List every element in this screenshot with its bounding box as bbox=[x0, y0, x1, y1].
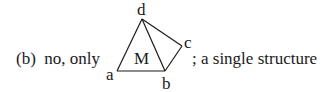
vertex-label-a: a bbox=[106, 65, 114, 84]
caption-suffix: ; a single structure bbox=[192, 50, 317, 67]
vertex-label-d: d bbox=[137, 0, 146, 19]
diagram-edges bbox=[117, 19, 182, 71]
vertex-label-c: c bbox=[184, 33, 192, 52]
region-label-m: M bbox=[134, 49, 149, 68]
quadrilateral-diagram: d a b c M bbox=[0, 0, 335, 92]
edge-c-b bbox=[165, 46, 182, 71]
vertex-label-b: b bbox=[162, 74, 171, 92]
